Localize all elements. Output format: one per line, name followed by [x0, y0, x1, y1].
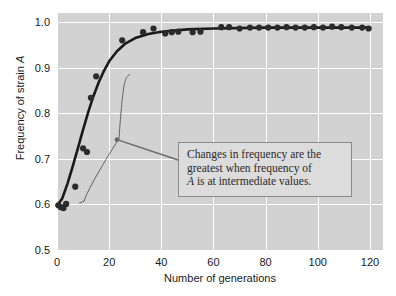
data-point	[329, 24, 335, 30]
callout-annotation: Changes in frequency are the greatest wh…	[178, 142, 352, 197]
x-tick-label: 80	[246, 257, 286, 268]
x-tick-label: 40	[141, 257, 181, 268]
data-point	[265, 24, 271, 30]
data-point	[320, 24, 326, 30]
y-tick-label: 0.6	[0, 199, 50, 210]
data-point	[150, 25, 156, 31]
x-tick-label: 120	[350, 257, 390, 268]
data-point	[169, 29, 175, 35]
data-point	[197, 29, 203, 35]
data-point	[88, 95, 94, 101]
y-tick-label: 0.5	[0, 245, 50, 256]
chart-figure: 0.50.60.70.80.91.0 020406080100120 Frequ…	[0, 0, 396, 296]
callout-line-3-rest: is at intermediate values.	[194, 175, 311, 187]
data-point	[162, 30, 168, 36]
callout-line-1: Changes in frequency are the	[187, 148, 344, 162]
data-point	[274, 24, 280, 30]
data-point	[236, 25, 242, 31]
data-point	[311, 24, 317, 30]
data-point	[338, 24, 344, 30]
callout-line-2: greatest when frequency of	[187, 162, 344, 176]
x-tick-label: 60	[193, 257, 233, 268]
data-point	[72, 184, 78, 190]
x-axis-title: Number of generations	[57, 272, 383, 284]
x-tick-label: 100	[298, 257, 338, 268]
data-point	[93, 73, 99, 79]
callout-line-3: A is at intermediate values.	[187, 175, 344, 189]
data-point	[63, 201, 69, 207]
data-point	[140, 29, 146, 35]
data-point	[190, 29, 196, 35]
data-point	[218, 24, 224, 30]
data-point	[119, 37, 125, 43]
data-point	[366, 25, 372, 31]
callout-italic-allele: A	[187, 175, 194, 187]
gridline-horizontal-0	[57, 250, 383, 251]
x-tick-label: 20	[89, 257, 129, 268]
data-point	[256, 24, 262, 30]
data-point	[293, 24, 299, 30]
plot-area	[57, 13, 383, 250]
data-point	[226, 24, 232, 30]
data-layer	[57, 13, 383, 250]
y-tick-label: 1.0	[0, 17, 50, 28]
data-point	[349, 24, 355, 30]
y-axis-title: Frequency of strain A	[14, 28, 26, 188]
data-point	[359, 24, 365, 30]
y-axis-title-text: Frequency of strain	[14, 63, 26, 160]
data-point	[302, 24, 308, 30]
data-point	[175, 29, 181, 35]
data-point	[283, 24, 289, 30]
data-point	[84, 149, 90, 155]
data-point	[247, 24, 253, 30]
y-axis-title-italic: A	[14, 56, 26, 63]
x-tick-label: 0	[37, 257, 77, 268]
